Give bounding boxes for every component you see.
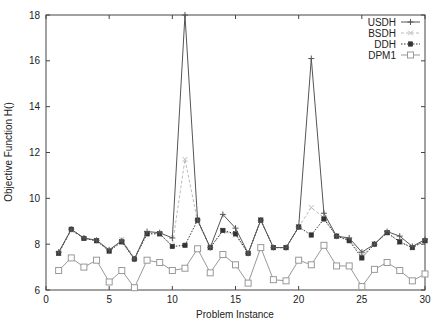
data-point	[207, 270, 213, 276]
data-point	[68, 255, 74, 261]
data-point	[270, 277, 276, 283]
y-tick-label: 14	[29, 101, 41, 112]
x-axis-title: Problem Instance	[196, 309, 274, 320]
x-tick-label: 10	[167, 294, 179, 305]
series-line-bsdh	[59, 159, 425, 258]
legend-item-ddh: DDH	[374, 39, 420, 50]
legend-item-usdh: USDH	[368, 17, 420, 28]
legend-item-dpm1: DPM1	[368, 50, 420, 61]
data-point	[94, 257, 100, 263]
legend-marker	[408, 42, 412, 46]
y-tick-label: 12	[29, 147, 41, 158]
data-point	[233, 232, 237, 236]
data-point	[131, 285, 137, 291]
data-point	[321, 242, 327, 248]
series-line-ddh	[59, 219, 425, 259]
data-point	[360, 256, 364, 260]
legend: USDHBSDHDDHDPM1	[368, 17, 420, 61]
data-point	[258, 245, 264, 251]
legend-marker	[408, 52, 414, 58]
legend-label: DDH	[374, 39, 396, 50]
legend-item-bsdh: BSDH	[368, 28, 420, 39]
data-point	[308, 56, 314, 62]
y-tick-label: 6	[34, 285, 40, 296]
data-point	[56, 268, 62, 274]
data-point	[346, 263, 352, 269]
data-point	[221, 228, 225, 232]
data-point	[398, 240, 402, 244]
data-point	[144, 257, 150, 263]
data-point	[309, 233, 313, 237]
x-tick-label: 20	[293, 294, 305, 305]
line-chart: 681012141618 051015202530 Problem Instan…	[0, 0, 439, 326]
data-point	[182, 12, 188, 18]
series-line-dpm1	[59, 245, 425, 287]
x-tick-label: 30	[419, 294, 431, 305]
series-bsdh	[56, 157, 427, 261]
y-tick-label: 16	[29, 55, 41, 66]
y-tick-label: 18	[29, 10, 41, 21]
x-tick-label: 5	[106, 294, 112, 305]
data-point	[308, 262, 314, 268]
data-point	[422, 271, 428, 277]
data-point	[157, 260, 163, 266]
data-point	[359, 284, 365, 290]
y-axis-title: Objective Function H()	[3, 102, 14, 201]
data-point	[371, 266, 377, 272]
data-point	[296, 257, 302, 263]
data-point	[106, 279, 112, 285]
y-tick-label: 10	[29, 193, 41, 204]
data-point	[182, 265, 188, 271]
data-point	[309, 205, 314, 210]
data-point	[397, 268, 403, 274]
series-ddh	[56, 217, 427, 262]
y-tick-label: 8	[34, 239, 40, 250]
x-tick-label: 25	[356, 294, 368, 305]
data-point	[220, 251, 226, 257]
data-point	[169, 235, 175, 241]
data-point	[81, 264, 87, 270]
legend-label: USDH	[368, 17, 396, 28]
legend-label: BSDH	[368, 28, 396, 39]
data-point	[283, 278, 289, 284]
legend-marker	[408, 19, 414, 25]
data-point	[119, 268, 125, 274]
data-point	[170, 244, 174, 248]
x-tick-label: 15	[230, 294, 242, 305]
data-point	[233, 262, 239, 268]
data-point	[409, 278, 415, 284]
data-point	[322, 217, 326, 221]
data-point	[183, 243, 187, 247]
data-point	[169, 268, 175, 274]
data-point	[334, 263, 340, 269]
legend-label: DPM1	[368, 50, 396, 61]
data-point	[384, 260, 390, 266]
x-tick-label: 0	[43, 294, 49, 305]
data-point	[195, 246, 201, 252]
data-point	[245, 280, 251, 286]
